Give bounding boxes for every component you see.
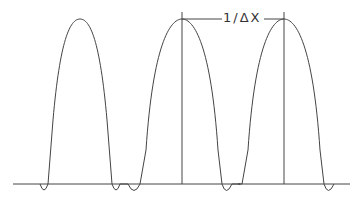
waveform bbox=[40, 19, 334, 191]
spacing-label: 1/ΔX bbox=[223, 10, 261, 25]
diffraction-diagram bbox=[0, 0, 364, 201]
